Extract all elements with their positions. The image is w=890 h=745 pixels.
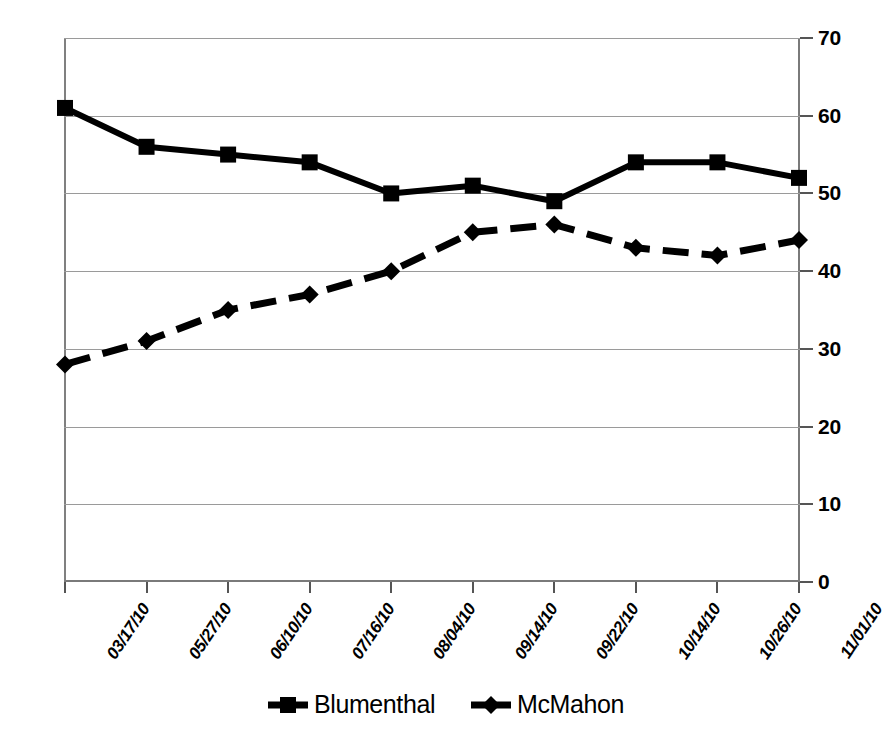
y-axis-tick-label: 50 (818, 182, 841, 203)
x-axis-tick (64, 582, 66, 593)
x-axis-tick-label: 11/01/10 (836, 600, 887, 662)
x-axis-tick-label: 09/22/10 (592, 600, 644, 663)
x-axis-tick (716, 582, 718, 593)
x-axis-tick (390, 582, 392, 593)
data-point-marker (709, 154, 725, 170)
chart-legend: BlumenthalMcMahon (0, 690, 890, 719)
data-point-marker (546, 193, 562, 209)
x-axis-tick-label: 03/17/10 (103, 600, 155, 663)
x-axis-tick-label: 09/14/10 (511, 600, 563, 663)
legend-label: McMahon (517, 690, 624, 719)
data-point-marker (57, 100, 73, 116)
diamond-marker-icon (469, 694, 513, 716)
data-point-marker (383, 185, 399, 201)
y-axis-tick-label: 40 (818, 260, 841, 281)
data-point-marker (628, 154, 644, 170)
data-point-marker (708, 247, 726, 265)
data-point-marker (219, 301, 237, 319)
y-axis-tick (800, 270, 813, 272)
x-axis-tick (798, 582, 800, 593)
series-mcmahon (56, 216, 808, 374)
y-axis-tick-label: 0 (818, 571, 829, 592)
x-axis-tick-label: 07/16/10 (347, 600, 399, 663)
data-point-marker (302, 154, 318, 170)
x-axis-tick-label: 10/26/10 (755, 600, 807, 663)
y-axis-tick (800, 348, 813, 350)
x-axis (64, 582, 800, 596)
legend-label: Blumenthal (314, 690, 435, 719)
legend-item-blumenthal[interactable]: Blumenthal (266, 690, 435, 719)
plot-area (64, 38, 800, 582)
data-point-marker (627, 239, 645, 257)
y-axis-tick-label: 30 (818, 338, 841, 359)
y-axis-tick-label: 60 (818, 105, 841, 126)
y-axis-tick (800, 426, 813, 428)
x-axis-tick-label: 08/04/10 (429, 600, 481, 663)
x-axis-tick-label: 06/10/10 (266, 600, 318, 663)
y-axis-tick-label: 10 (818, 493, 841, 514)
data-point-marker (139, 139, 155, 155)
y-axis-tick (800, 503, 813, 505)
y-axis: 010203040506070 (800, 38, 890, 582)
square-marker-icon (266, 694, 310, 716)
series-blumenthal (57, 100, 807, 209)
series-line (65, 225, 799, 365)
data-point-marker (220, 147, 236, 163)
y-axis-tick (800, 37, 813, 39)
y-axis-tick-label: 70 (818, 27, 841, 48)
data-point-marker (138, 332, 156, 350)
data-point-marker (382, 262, 400, 280)
data-point-marker (301, 285, 319, 303)
x-axis-tick (227, 582, 229, 593)
legend-item-mcmahon[interactable]: McMahon (469, 690, 624, 719)
x-axis-tick (635, 582, 637, 593)
data-point-marker (464, 223, 482, 241)
data-point-marker (545, 216, 563, 234)
line-chart: 010203040506070 03/17/1005/27/1006/10/10… (0, 0, 890, 745)
y-axis-tick-label: 20 (818, 416, 841, 437)
x-axis-tick-label: 05/27/10 (184, 600, 236, 663)
data-point-marker (465, 178, 481, 194)
x-axis-tick (309, 582, 311, 593)
y-axis-tick (800, 192, 813, 194)
x-axis-tick-label: 10/14/10 (674, 600, 726, 663)
x-axis-tick (146, 582, 148, 593)
series-line (65, 108, 799, 201)
y-axis-tick (800, 115, 813, 117)
y-axis-tick (800, 581, 813, 583)
series-layer (64, 38, 800, 582)
x-axis-tick (553, 582, 555, 593)
data-point-marker (56, 355, 74, 373)
x-axis-tick (472, 582, 474, 593)
